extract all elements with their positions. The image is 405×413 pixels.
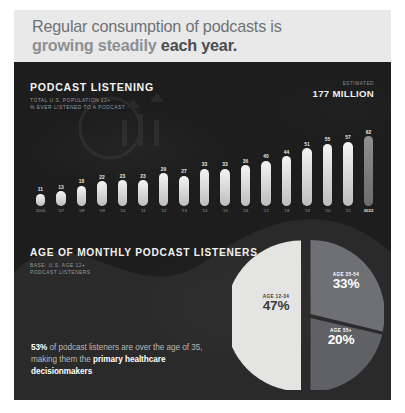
bar-value-label: 44 (284, 150, 290, 155)
bar-column: 33 (196, 124, 213, 206)
bar-value-label: 13 (58, 185, 64, 190)
bar-value-label: 29 (161, 167, 167, 172)
bar-column: 18 (73, 124, 90, 206)
bar-shape (56, 191, 66, 206)
callout-percent: 53% (31, 343, 47, 352)
bar-shape (282, 156, 292, 206)
bar-shape (220, 169, 230, 206)
bar-value-label: 33 (222, 162, 228, 167)
page-title: Regular consumption of podcasts is growi… (32, 17, 391, 55)
infographic-card: PODCAST LISTENING TOTAL U.S. POPULATION … (14, 62, 391, 400)
bar-column: 27 (176, 124, 193, 206)
estimated-total-callout: ESTIMATED 177 MILLION (313, 81, 374, 99)
bar-column: 23 (114, 124, 131, 206)
bar-shape (179, 176, 189, 206)
bar-value-label: 51 (304, 142, 310, 147)
bar-year-label: '15 (217, 208, 234, 213)
headline-line-2: growing steadily each year. (32, 36, 391, 55)
bar-value-label: 33 (202, 162, 208, 167)
bar-year-label: 2006 (32, 208, 49, 213)
bar-column: 51 (299, 124, 316, 206)
bar-year-label: '12 (155, 208, 172, 213)
bar-column: 23 (135, 124, 152, 206)
section-subtitle-age: BASE: U.S. AGE 12+ PODCAST LISTENERS (30, 262, 258, 276)
bar-shape (323, 144, 333, 206)
bar-year-label: '11 (135, 208, 152, 213)
bar-chart-x-axis: 2006'07'08'09'10'11'12'13'14'15'16'17'18… (32, 208, 377, 213)
headline-period: . (233, 36, 237, 54)
bar-column: 57 (340, 124, 357, 206)
bar-shape (36, 194, 46, 206)
bar-value-label: 18 (79, 179, 85, 184)
bar-shape (302, 148, 312, 206)
bar-value-label: 62 (366, 130, 372, 135)
bar-value-label: 40 (263, 154, 269, 159)
bar-year-label: '09 (94, 208, 111, 213)
section2-sub-line-2: PODCAST LISTENERS (30, 269, 258, 276)
bar-chart-podcast-listening: 1113182223232927333336404451555762 (32, 124, 377, 206)
bar-column: 13 (53, 124, 70, 206)
bar-shape (241, 165, 251, 206)
pie-slice-age-12-34 (232, 241, 301, 391)
headline-band: Regular consumption of podcasts is growi… (14, 10, 391, 62)
bar-column: 33 (217, 124, 234, 206)
estimated-label: ESTIMATED (313, 81, 374, 86)
bar-year-label: '17 (258, 208, 275, 213)
section-subtitle-podcast-listening: TOTAL U.S. POPULATION 12+ % EVER LISTENE… (30, 97, 154, 111)
bar-shape (138, 180, 148, 206)
estimated-value: 177 MILLION (313, 88, 374, 99)
bar-column: 40 (258, 124, 275, 206)
bar-column: 62 (360, 124, 377, 206)
section1-sub-line-1: TOTAL U.S. POPULATION 12+ (30, 97, 154, 104)
bar-value-label: 22 (99, 175, 105, 180)
bar-shape (343, 142, 353, 206)
bar-year-label: '07 (53, 208, 70, 213)
bar-column: 36 (237, 124, 254, 206)
bar-year-label: '18 (278, 208, 295, 213)
bar-year-label: 2022 (360, 208, 377, 213)
bar-shape (118, 180, 128, 206)
pie-slice-age-35-54 (311, 240, 385, 332)
bar-year-label: '21 (340, 208, 357, 213)
bar-value-label: 27 (181, 169, 187, 174)
bar-value-label: 23 (140, 174, 146, 179)
bar-value-label: 11 (38, 187, 43, 192)
bar-year-label: '20 (319, 208, 336, 213)
bar-column: 29 (155, 124, 172, 206)
bar-value-label: 57 (345, 135, 351, 140)
section-podcast-listening-header: PODCAST LISTENING TOTAL U.S. POPULATION … (30, 81, 154, 111)
headline-bold: each year (161, 36, 233, 54)
infographic-root: Regular consumption of podcasts is growi… (0, 0, 405, 413)
bar-shape (261, 161, 271, 206)
bar-year-label: '08 (73, 208, 90, 213)
section-title-age: AGE OF MONTHLY PODCAST LISTENERS (30, 247, 258, 258)
bar-shape (97, 181, 107, 206)
section1-sub-line-2: % EVER LISTENED TO A PODCAST (30, 104, 154, 111)
bar-shape (364, 136, 374, 206)
bar-year-label: '13 (176, 208, 193, 213)
bar-value-label: 23 (120, 174, 126, 179)
headline-line-1: Regular consumption of podcasts is (32, 17, 282, 35)
section2-sub-line-1: BASE: U.S. AGE 12+ (30, 262, 258, 269)
callout-statistic: 53% of podcast listeners are over the ag… (31, 342, 216, 379)
bar-shape (200, 169, 210, 206)
pie-chart-age-distribution: AGE 12-34 47% AGE 35-54 33% AGE 55+ 20% (232, 238, 384, 390)
bar-value-label: 36 (243, 159, 249, 164)
bar-column: 22 (94, 124, 111, 206)
bar-value-label: 55 (325, 137, 331, 142)
bar-column: 44 (278, 124, 295, 206)
bar-column: 11 (32, 124, 49, 206)
bar-year-label: '14 (196, 208, 213, 213)
bar-column: 55 (319, 124, 336, 206)
section-age-header: AGE OF MONTHLY PODCAST LISTENERS BASE: U… (30, 247, 258, 276)
bar-year-label: '10 (114, 208, 131, 213)
bar-year-label: '19 (299, 208, 316, 213)
pie-chart-svg (232, 238, 384, 390)
bar-shape (77, 186, 87, 206)
bar-year-label: '16 (237, 208, 254, 213)
headline-semibold: growing steadily (32, 36, 161, 54)
bar-shape (159, 173, 169, 206)
section-title-podcast-listening: PODCAST LISTENING (30, 81, 154, 93)
